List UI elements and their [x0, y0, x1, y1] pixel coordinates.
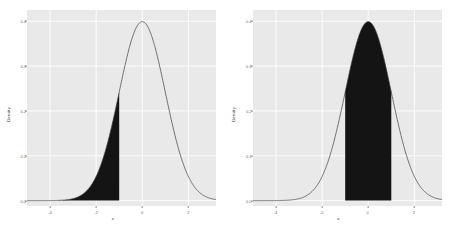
x-tick-mark: [142, 206, 143, 208]
x-tick-label: -4: [40, 210, 60, 215]
gridlines: [27, 10, 216, 206]
shaded-area: [345, 22, 391, 201]
density-plot-svg: [27, 10, 216, 206]
x-tick-mark: [321, 206, 322, 208]
x-tick-mark: [50, 206, 51, 208]
x-tick-mark: [96, 206, 97, 208]
x-tick-mark: [413, 206, 414, 208]
figure-normal-density-panels: Density x 0.00.10.20.30.4 -4-202 Density…: [0, 0, 451, 229]
plot-area-right: [253, 10, 442, 206]
x-tick-label: 2: [178, 210, 198, 215]
x-tick-label: -2: [312, 210, 332, 215]
x-tick-mark: [275, 206, 276, 208]
x-tick-mark: [188, 206, 189, 208]
x-tick-label: -2: [86, 210, 106, 215]
x-tick-label: 2: [404, 210, 424, 215]
x-tick-label: 0: [132, 210, 152, 215]
x-tick-mark: [367, 206, 368, 208]
density-plot-svg: [253, 10, 442, 206]
shaded-area: [27, 92, 119, 201]
plot-area-left: [27, 10, 216, 206]
x-tick-label: -4: [266, 210, 286, 215]
panel-left-tail: Density x 0.00.10.20.30.4 -4-202: [0, 0, 226, 229]
panel-central: Density x 0.00.10.20.30.4 -4-202: [226, 0, 451, 229]
x-tick-label: 0: [358, 210, 378, 215]
